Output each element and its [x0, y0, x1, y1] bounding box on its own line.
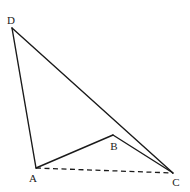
- label-C: C: [172, 176, 179, 188]
- label-B: B: [110, 140, 117, 152]
- segment-DC: [12, 28, 173, 173]
- geometry-diagram: D A B C: [0, 0, 190, 192]
- segment-BC: [113, 135, 173, 173]
- segment-AC: [36, 168, 173, 173]
- label-D: D: [7, 14, 15, 26]
- segment-DA: [12, 28, 36, 168]
- label-A: A: [29, 172, 37, 184]
- segments: [12, 28, 173, 173]
- segment-AB: [36, 135, 113, 168]
